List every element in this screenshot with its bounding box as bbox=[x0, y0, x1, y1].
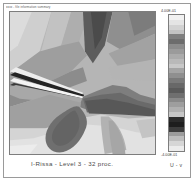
colorbar-min-label: -4.00E-01 bbox=[161, 153, 177, 158]
figure-header-note: xxxx - file information summary bbox=[6, 5, 84, 10]
figure-window: xxxx - file information summary bbox=[0, 0, 195, 182]
header-note-text: xxxx - file information summary bbox=[6, 5, 84, 10]
colorbar-max-label: 4.00E-01 bbox=[161, 9, 176, 14]
colorbar-band-27 bbox=[169, 146, 184, 151]
colorbar-wrap bbox=[168, 14, 185, 152]
contour-plot-canvas bbox=[10, 12, 155, 154]
figure-variable-label: U - v bbox=[170, 161, 182, 169]
colorbar bbox=[168, 14, 185, 152]
figure-caption: I-Rissa - Level 3 - 32 proc. bbox=[31, 160, 113, 168]
contour-plot bbox=[9, 11, 156, 155]
